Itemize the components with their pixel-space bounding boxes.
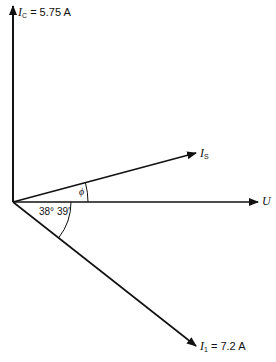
i1-subscript: 1: [204, 346, 208, 353]
label-is: IS: [200, 147, 209, 160]
label-u: U: [262, 195, 271, 207]
ic-subscript: C: [22, 12, 27, 19]
phasor-i1: [13, 202, 196, 346]
phi-angle-arc: [85, 183, 88, 202]
ic-value: = 5.75 A: [30, 6, 71, 18]
phi-label: ϕ: [79, 187, 84, 197]
phasor-diagram: [0, 0, 276, 362]
phasor-is: [13, 153, 196, 202]
is-subscript: S: [204, 153, 209, 160]
theta-label: 38° 39′: [39, 207, 70, 217]
label-ic: IC = 5.75 A: [18, 6, 71, 19]
label-i1: I1 = 7.2 A: [200, 340, 246, 353]
i1-value: = 7.2 A: [211, 340, 246, 352]
u-symbol: U: [262, 194, 271, 208]
